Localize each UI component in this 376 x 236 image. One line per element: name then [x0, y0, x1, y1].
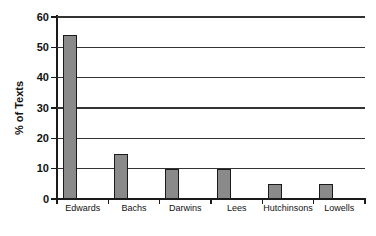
y-tick-label: 20 [19, 132, 49, 145]
gridline [57, 107, 365, 109]
y-axis-tick [51, 77, 57, 79]
gridline [57, 16, 365, 18]
bar-bachs [114, 154, 128, 200]
y-tick-label: 40 [19, 71, 49, 84]
bar-darwins [165, 169, 179, 199]
x-category-label: Lowells [307, 203, 371, 214]
y-tick-label: 0 [19, 193, 49, 206]
gridline [57, 77, 365, 79]
bar-chart-figure: % of Texts 0102030405060EdwardsBachsDarw… [0, 0, 376, 236]
y-axis-tick [51, 16, 57, 18]
y-axis-tick [51, 107, 57, 109]
y-tick-label: 30 [19, 102, 49, 115]
y-axis-tick [51, 138, 57, 140]
y-tick-label: 60 [19, 11, 49, 24]
gridline [57, 138, 365, 140]
bar-edwards [63, 35, 77, 199]
gridline [57, 168, 365, 170]
gridline [57, 47, 365, 49]
y-axis-tick [51, 168, 57, 170]
y-tick-label: 50 [19, 41, 49, 54]
bar-hutchinsons [268, 184, 282, 199]
y-tick-label: 10 [19, 162, 49, 175]
bar-lees [217, 169, 231, 199]
bar-lowells [319, 184, 333, 199]
y-axis-tick [51, 47, 57, 49]
